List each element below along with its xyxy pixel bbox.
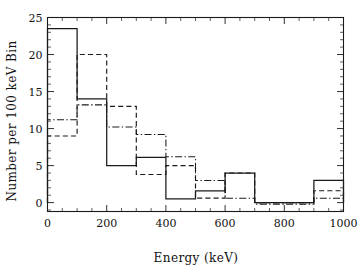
y-tick-label: 0 bbox=[36, 197, 43, 210]
y-tick-label: 20 bbox=[29, 49, 43, 62]
x-tick-label: 400 bbox=[155, 217, 176, 230]
axis-ticks bbox=[48, 18, 344, 212]
x-tick-label: 0 bbox=[44, 217, 51, 230]
x-tick-label: 800 bbox=[274, 217, 295, 230]
x-axis-title-text: Energy (keV) bbox=[154, 251, 239, 265]
series-line-dash-dot bbox=[48, 105, 344, 204]
figure-container: Number per 100 keV Bin Energy (keV) 0510… bbox=[0, 0, 358, 269]
y-tick-label: 10 bbox=[29, 123, 43, 136]
y-tick-label: 15 bbox=[29, 86, 43, 99]
plot-frame bbox=[48, 18, 344, 212]
y-axis-title-text: Number per 100 keV Bin bbox=[5, 40, 19, 201]
y-axis-title: Number per 100 keV Bin bbox=[5, 40, 19, 201]
histogram-chart: Number per 100 keV Bin Energy (keV) 0510… bbox=[0, 0, 358, 269]
y-tick-labels: 0510152025 bbox=[29, 12, 43, 210]
x-axis-title: Energy (keV) bbox=[154, 251, 239, 265]
x-tick-labels: 02004006008001000 bbox=[44, 217, 358, 230]
data-series-layer bbox=[48, 29, 344, 204]
x-tick-label: 1000 bbox=[330, 217, 358, 230]
x-tick-label: 200 bbox=[96, 217, 117, 230]
y-tick-label: 5 bbox=[36, 160, 43, 173]
x-tick-label: 600 bbox=[215, 217, 236, 230]
y-tick-label: 25 bbox=[29, 12, 43, 25]
